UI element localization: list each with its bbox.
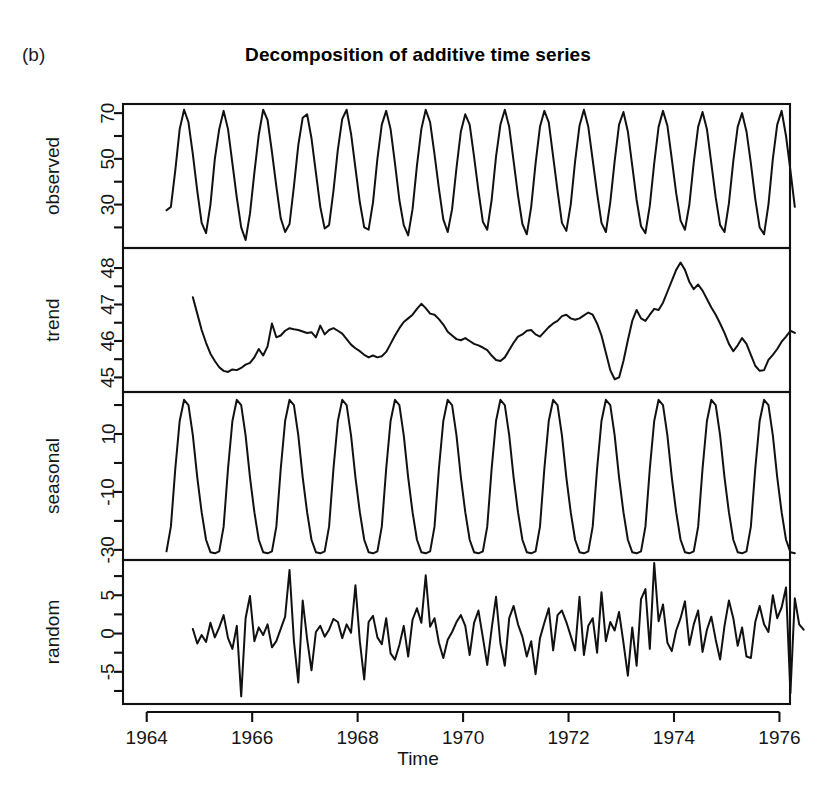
x-tick-label: 1976 bbox=[758, 727, 800, 748]
panel-random: -505random bbox=[42, 560, 804, 704]
plot-canvas: 305070observed45464748trend-30-1010seaso… bbox=[0, 0, 836, 800]
x-axis-title: Time bbox=[0, 748, 836, 770]
y-tick-label-random: 0 bbox=[98, 628, 119, 639]
chart-title: Decomposition of additive time series bbox=[0, 44, 836, 66]
y-tick-label-random: 5 bbox=[98, 590, 119, 601]
x-tick-label: 1964 bbox=[126, 727, 169, 748]
panels-group: 305070observed45464748trend-30-1010seaso… bbox=[42, 103, 804, 704]
series-line-random bbox=[193, 563, 804, 696]
series-line-observed bbox=[167, 110, 795, 240]
x-tick-label: 1972 bbox=[547, 727, 589, 748]
panel-axis-label-random: random bbox=[42, 600, 63, 664]
decomposition-figure: (b) Decomposition of additive time serie… bbox=[0, 0, 836, 800]
y-tick-label-seasonal: -30 bbox=[98, 536, 119, 563]
series-line-trend bbox=[193, 263, 795, 380]
y-tick-label-random: -5 bbox=[98, 663, 119, 680]
x-tick-label: 1974 bbox=[653, 727, 696, 748]
x-tick-label: 1970 bbox=[442, 727, 484, 748]
panel-axis-label-seasonal: seasonal bbox=[42, 438, 63, 514]
panel-seasonal: -30-1010seasonal bbox=[42, 392, 795, 564]
x-tick-label: 1966 bbox=[231, 727, 273, 748]
y-tick-label-observed: 30 bbox=[98, 194, 119, 215]
panel-axis-label-observed: observed bbox=[42, 137, 63, 215]
y-tick-label-trend: 48 bbox=[98, 257, 119, 278]
x-tick-label: 1968 bbox=[336, 727, 378, 748]
y-tick-label-observed: 50 bbox=[98, 148, 119, 169]
series-line-seasonal bbox=[167, 400, 795, 554]
y-tick-label-trend: 45 bbox=[98, 367, 119, 388]
y-tick-label-observed: 70 bbox=[98, 103, 119, 124]
y-tick-label-seasonal: -10 bbox=[98, 478, 119, 505]
y-tick-label-seasonal: 10 bbox=[98, 423, 119, 444]
y-tick-label-trend: 46 bbox=[98, 330, 119, 351]
y-tick-label-trend: 47 bbox=[98, 294, 119, 315]
x-axis: 1964196619681970197219741976 bbox=[126, 712, 801, 748]
panel-frame-random bbox=[123, 560, 790, 704]
panel-observed: 305070observed bbox=[42, 103, 795, 248]
panel-trend: 45464748trend bbox=[42, 248, 795, 392]
panel-axis-label-trend: trend bbox=[42, 298, 63, 341]
